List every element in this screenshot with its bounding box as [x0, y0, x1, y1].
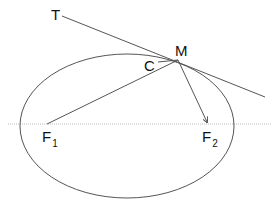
label-f2: F2: [202, 129, 218, 144]
label-f1: F1: [42, 129, 58, 144]
ellipse-diagram: [0, 0, 279, 208]
label-m: M: [175, 43, 188, 58]
label-f1-sub: 1: [52, 138, 58, 149]
focal-line-f1-m: [47, 60, 178, 124]
label-t: T: [51, 7, 60, 22]
ellipse: [20, 54, 234, 198]
label-f1-main: F: [42, 128, 51, 145]
label-f2-sub: 2: [212, 138, 218, 149]
tangent-line: [62, 16, 265, 97]
label-c: C: [144, 58, 155, 73]
label-f2-main: F: [202, 128, 211, 145]
